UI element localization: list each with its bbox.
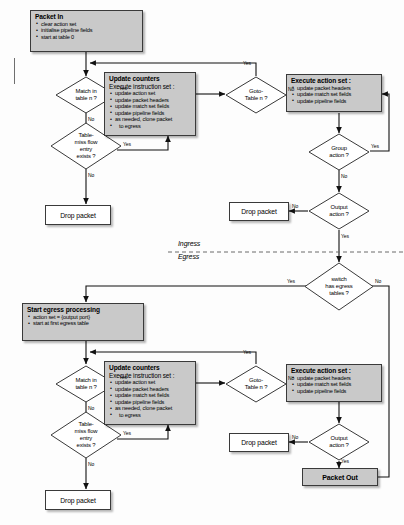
ingress-execute-action-set-box[interactable]: Execute action set : update packet heade…	[286, 74, 382, 112]
update-counters-title: Update counters	[109, 75, 192, 83]
edge-label-yes: Yes	[243, 60, 251, 66]
list-item: as needed, clone packet	[109, 116, 192, 123]
decision-line-1: Table-	[78, 421, 93, 428]
flowchart-canvas: Packet In clear action set initialise pi…	[0, 0, 404, 525]
edge-label-yes: Yes	[287, 278, 295, 284]
edge-label-no: No	[292, 203, 298, 209]
edge-label-no: No	[88, 405, 94, 411]
action-list: update packet headers update match set f…	[291, 375, 378, 395]
list-item: update match set fields	[109, 392, 192, 399]
decision-line-1: Output	[331, 435, 348, 442]
ingress-group-action-decision[interactable]: Group action ?	[308, 133, 370, 171]
decision-line-3: entry	[80, 146, 92, 153]
egress-goto-table-decision[interactable]: Goto- Table n ?	[225, 365, 287, 403]
edge-label-yes: Yes	[341, 233, 349, 239]
list-item: update match set fields	[109, 103, 192, 110]
start-egress-list: action set = {output port} start at firs…	[27, 314, 140, 327]
list-item: start at first egress table	[27, 320, 140, 327]
list-item: update pipeline fields	[109, 110, 192, 117]
list-item: as needed, clone packet	[109, 405, 192, 412]
edge-label-yes: Yes	[119, 85, 127, 91]
decision-line-2: table n ?	[75, 384, 96, 391]
decision-line-4: exists ?	[77, 153, 96, 160]
edge-label-no: No	[341, 173, 347, 179]
diamond-label: Goto- Table n ?	[225, 76, 287, 114]
edge-label-yes: Yes	[243, 349, 251, 355]
diamond-label: Output action ?	[308, 423, 370, 461]
packet-in-list: clear action set initialise pipeline fie…	[35, 21, 139, 41]
edge-label-yes: Yes	[371, 143, 379, 149]
decision-line-1: Goto-	[249, 377, 263, 384]
decision-line-1: switch	[331, 276, 346, 283]
ingress-output-action-decision[interactable]: Output action ?	[308, 192, 370, 230]
egress-execute-action-set-box[interactable]: Execute action set : update packet heade…	[286, 364, 382, 402]
list-item: update pipeline fields	[291, 388, 378, 395]
list-item-cont: to egress	[109, 412, 192, 419]
list-item: initialise pipeline fields	[35, 27, 139, 34]
decision-line-1: Match in	[75, 377, 96, 384]
list-item: start at table 0	[35, 34, 139, 41]
ingress-drop-packet-right[interactable]: Drop packet	[229, 202, 289, 221]
diamond-label: switch has egress tables ?	[304, 262, 374, 311]
edge-label-no: No	[88, 461, 94, 467]
decision-line-1: Group	[331, 145, 347, 152]
decision-line-3: tables ?	[329, 290, 348, 297]
instruction-list: update action set update packet headers …	[109, 379, 192, 419]
update-counters-title: Update counters	[109, 364, 192, 372]
ingress-goto-table-decision[interactable]: Goto- Table n ?	[225, 76, 287, 114]
decision-line-3: entry	[80, 435, 92, 442]
ingress-update-counters-box[interactable]: Update counters Execute instruction set …	[104, 72, 196, 136]
edge-label-no: No	[292, 434, 298, 440]
decision-line-2: Table n ?	[245, 95, 268, 102]
edge-label-yes: Yes	[123, 141, 131, 147]
switch-has-egress-tables-decision[interactable]: switch has egress tables ?	[304, 262, 374, 311]
decision-line-4: exists ?	[77, 442, 96, 449]
ingress-drop-packet-left[interactable]: Drop packet	[45, 205, 111, 225]
action-list: update packet headers update match set f…	[291, 85, 378, 105]
decision-line-2: Table n ?	[245, 384, 268, 391]
start-egress-title: Start egress processing	[27, 306, 140, 314]
decision-line-1: Table-	[78, 132, 93, 139]
egress-update-counters-box[interactable]: Update counters Execute instruction set …	[104, 361, 196, 425]
decision-line-2: miss flow	[75, 139, 98, 146]
egress-drop-packet-left[interactable]: Drop packet	[45, 490, 111, 510]
edge-label-no: No	[288, 375, 294, 381]
list-item: update match set fields	[291, 91, 378, 98]
edge-label-yes: Yes	[123, 430, 131, 436]
list-item-cont: to egress	[109, 123, 192, 130]
list-item: update packet headers	[291, 375, 378, 382]
edge-label-yes: Yes	[119, 374, 127, 380]
packet-out-box[interactable]: Packet Out	[302, 468, 378, 486]
egress-zone-label: Egress	[178, 253, 199, 260]
edge-label-yes: Yes	[341, 458, 349, 464]
diamond-label: Goto- Table n ?	[225, 365, 287, 403]
execute-action-set-title: Execute action set :	[291, 77, 378, 85]
edge-label-no: No	[375, 278, 381, 284]
instruction-list: update action set update packet headers …	[109, 90, 192, 130]
decision-line-1: Goto-	[249, 88, 263, 95]
list-item: action set = {output port}	[27, 314, 140, 321]
scan-artifact-tick	[14, 58, 15, 84]
decision-line-1: Match in	[75, 88, 96, 95]
egress-drop-packet-right[interactable]: Drop packet	[229, 433, 289, 452]
list-item: update packet headers	[109, 97, 192, 104]
packet-in-box[interactable]: Packet In clear action set initialise pi…	[30, 10, 143, 52]
diamond-label: Group action ?	[308, 133, 370, 171]
edge-label-no: No	[88, 172, 94, 178]
edge-label-no: No	[88, 116, 94, 122]
decision-line-2: action ?	[329, 211, 348, 218]
ingress-zone-label: Ingress	[178, 240, 200, 247]
list-item: update match set fields	[291, 381, 378, 388]
start-egress-processing-box[interactable]: Start egress processing action set = {ou…	[22, 303, 144, 341]
egress-output-action-decision[interactable]: Output action ?	[308, 423, 370, 461]
list-item: update pipeline fields	[109, 399, 192, 406]
edge-label-no: No	[288, 86, 294, 92]
decision-line-1: Output	[331, 204, 348, 211]
list-item: clear action set	[35, 21, 139, 28]
diamond-label: Output action ?	[308, 192, 370, 230]
decision-line-2: miss flow	[75, 428, 98, 435]
list-item: update packet headers	[291, 85, 378, 92]
list-item: update packet headers	[109, 386, 192, 393]
decision-line-2: action ?	[329, 152, 348, 159]
decision-line-2: has egress	[325, 283, 352, 290]
